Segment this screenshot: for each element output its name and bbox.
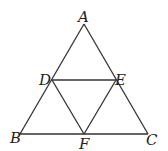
triangle-diagram: A B C D E F [0,0,168,151]
label-b: B [9,129,21,147]
segment-df [52,80,84,134]
segment-ef [84,80,116,134]
label-e: E [114,71,126,89]
label-c: C [146,131,158,149]
label-d: D [38,71,51,89]
label-a: A [76,8,89,26]
label-f: F [78,135,90,151]
